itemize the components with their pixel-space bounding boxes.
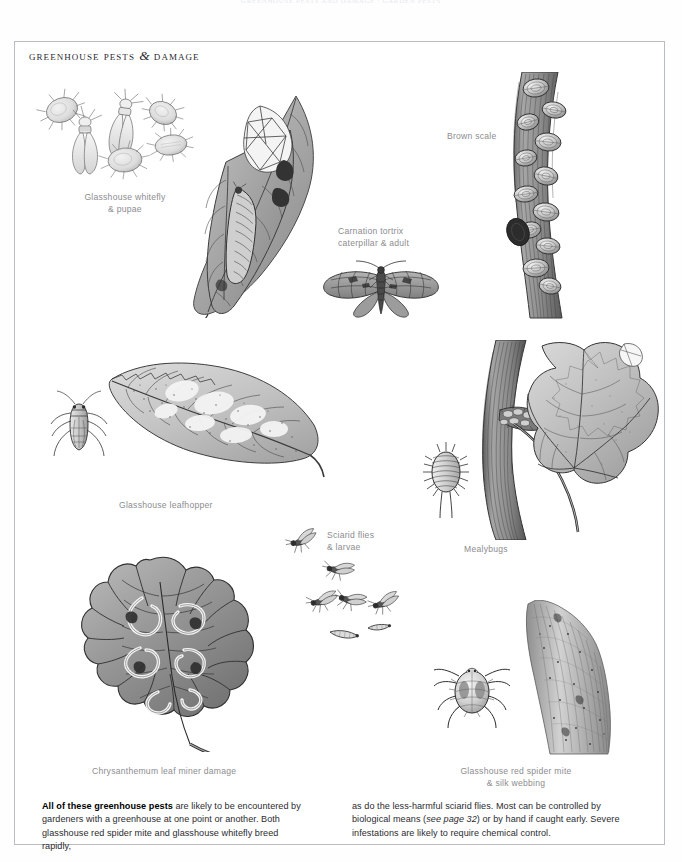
running-head: GREENHOUSE PESTS AND DAMAGE · GARDEN PES… xyxy=(0,0,682,3)
carnation-tortrix-caterpillar-on-leaf-illustration xyxy=(168,88,343,318)
carnation-tortrix-adult-moth-illustration xyxy=(318,258,444,324)
caption-leaf-miner: Chrysanthemum leaf miner damage xyxy=(92,766,236,778)
mealybugs-on-vine-stem-and-grape-leaf-illustration xyxy=(470,340,660,540)
caption-carnation-tortrix-line1: Carnation tortrix xyxy=(338,226,403,236)
caption-mealybugs-line1: Mealybugs xyxy=(464,544,508,554)
caption-carnation-tortrix: Carnation tortrix caterpillar & adult xyxy=(338,226,409,249)
caption-mite-line1: Glasshouse red spider mite xyxy=(460,766,571,776)
page-title-part-1: Greenhouse Pests xyxy=(29,49,135,63)
glasshouse-red-spider-mite-illustration xyxy=(432,648,512,734)
caption-leaf-miner-line1: Chrysanthemum leaf miner damage xyxy=(92,766,236,776)
body-text-right-column: as do the less-harmful sciarid flies. Mo… xyxy=(352,800,632,840)
chrysanthemum-leaf-miner-damage-illustration xyxy=(40,552,342,752)
body-lead-in: All of these greenhouse pests xyxy=(42,801,173,811)
caption-sciarid-line1: Sciarid flies xyxy=(327,530,374,540)
mealybug-illustration xyxy=(420,440,472,518)
silk-webbing-on-shoot-illustration xyxy=(510,600,640,755)
caption-mite-line2: & silk webbing xyxy=(487,778,545,788)
page-title-ampersand: & xyxy=(139,48,150,63)
body-text-left-column: All of these greenhouse pests are likely… xyxy=(42,800,304,854)
brown-scale-on-stem-illustration xyxy=(496,72,576,320)
caption-red-spider-mite: Glasshouse red spider mite & silk webbin… xyxy=(441,766,591,789)
page-title-part-2: Damage xyxy=(154,49,200,63)
caption-leafhopper: Glasshouse leafhopper xyxy=(119,500,213,512)
body-right-cross-reference: see page 32 xyxy=(426,814,477,824)
caption-whitefly-line2: & pupae xyxy=(108,204,142,214)
caption-sciarid-line2: & larvae xyxy=(327,542,361,552)
caption-brown-scale: Brown scale xyxy=(447,131,497,143)
caption-whitefly-line1: Glasshouse whitefly xyxy=(84,192,165,202)
caption-sciarid-flies: Sciarid flies & larvae xyxy=(327,530,374,553)
caption-mealybugs: Mealybugs xyxy=(464,544,508,556)
caption-brown-scale-line1: Brown scale xyxy=(447,131,497,141)
page-title: Greenhouse Pests & Damage xyxy=(29,48,200,64)
caption-carnation-tortrix-line2: caterpillar & adult xyxy=(338,238,409,248)
caption-whitefly: Glasshouse whitefly & pupae xyxy=(71,192,179,215)
caption-leafhopper-line1: Glasshouse leafhopper xyxy=(119,500,213,510)
book-page: GREENHOUSE PESTS AND DAMAGE · GARDEN PES… xyxy=(0,0,682,862)
leafhopper-damaged-leaf-illustration xyxy=(104,355,329,495)
glasshouse-leafhopper-illustration xyxy=(46,388,112,466)
